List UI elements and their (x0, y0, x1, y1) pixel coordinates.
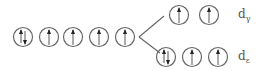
electron-up-arrow-icon (123, 29, 127, 45)
electron-up-arrow-icon (97, 29, 101, 45)
split-line-0 (139, 16, 164, 37)
lower-orbital-set-d-epsilon (157, 48, 228, 67)
degenerate-orbital-set (14, 28, 135, 47)
orbital-splitting-diagram (0, 0, 259, 71)
electron-up-arrow-icon (190, 49, 194, 65)
label-d-gamma-sub: γ (246, 14, 251, 23)
orbital-1 (40, 28, 59, 47)
upper-orbital-set-d-gamma (170, 6, 219, 25)
electron-up-arrow-icon (71, 29, 75, 45)
electron-up-arrow-icon (177, 7, 181, 23)
electron-up-arrow-icon (47, 29, 51, 45)
electron-pair-arrows-icon (162, 49, 170, 65)
label-d-gamma-main: d (238, 7, 246, 21)
label-d-epsilon: dε (238, 50, 250, 65)
label-d-gamma: dγ (238, 8, 250, 23)
splitting-lines (139, 16, 164, 53)
orbital-0 (157, 48, 176, 67)
orbital-2 (64, 28, 83, 47)
orbital-4 (116, 28, 135, 47)
label-d-epsilon-sub: ε (246, 56, 250, 65)
orbital-1 (200, 6, 219, 25)
orbital-3 (90, 28, 109, 47)
orbital-0 (14, 28, 33, 47)
electron-up-arrow-icon (216, 49, 220, 65)
orbital-2 (209, 48, 228, 67)
split-line-1 (139, 37, 160, 53)
label-d-epsilon-main: d (238, 49, 246, 63)
electron-pair-arrows-icon (19, 29, 27, 45)
orbital-1 (183, 48, 202, 67)
orbital-0 (170, 6, 189, 25)
electron-up-arrow-icon (207, 7, 211, 23)
